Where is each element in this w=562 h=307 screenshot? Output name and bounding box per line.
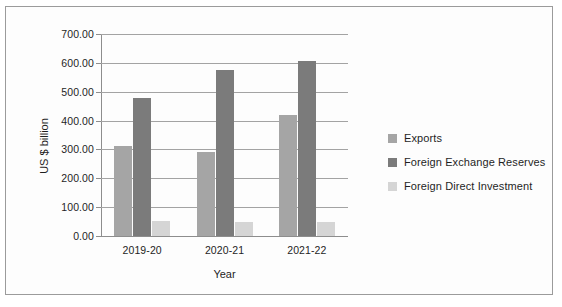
y-axis-tick	[96, 92, 101, 93]
plot-area	[101, 34, 348, 236]
legend-item[interactable]: Exports	[388, 126, 548, 150]
y-axis-tick-label: 0.00	[73, 230, 94, 242]
y-axis-tick	[96, 236, 101, 237]
y-axis-tick	[96, 121, 101, 122]
y-axis-tick-label: 400.00	[61, 115, 94, 127]
legend-item[interactable]: Foreign Exchange Reserves	[388, 150, 548, 174]
y-axis-tick	[96, 34, 101, 35]
legend-swatch-icon	[388, 182, 397, 191]
y-axis-tick-label: 200.00	[61, 172, 94, 184]
y-axis-tick-label: 700.00	[61, 28, 94, 40]
bar	[197, 152, 215, 236]
x-axis-title: Year	[101, 268, 348, 280]
legend-item[interactable]: Foreign Direct Investment	[388, 174, 548, 198]
bar	[133, 98, 151, 236]
y-axis-tick-label: 300.00	[61, 143, 94, 155]
bar	[235, 222, 253, 236]
y-axis-tick	[96, 207, 101, 208]
bar	[279, 115, 297, 236]
y-axis-tick-label: 600.00	[61, 57, 94, 69]
y-axis-tick	[96, 178, 101, 179]
y-axis-tick	[96, 63, 101, 64]
x-axis-tick-label: 2019-20	[123, 244, 162, 256]
bar	[317, 222, 335, 236]
bar	[216, 70, 234, 236]
bar	[298, 61, 316, 236]
legend-swatch-icon	[388, 158, 397, 167]
y-axis-tick-label: 100.00	[61, 201, 94, 213]
x-axis-tick-label: 2020-21	[205, 244, 244, 256]
y-axis-tick-label: 500.00	[61, 86, 94, 98]
legend-item-label: Foreign Exchange Reserves	[404, 156, 545, 168]
y-axis-tick-labels: 0.00100.00200.00300.00400.00500.00600.00…	[34, 34, 94, 237]
legend-item-label: Foreign Direct Investment	[404, 180, 532, 192]
x-axis-tick-labels: 2019-202020-212021-22	[101, 244, 348, 262]
legend-swatch-icon	[388, 134, 397, 143]
x-axis-tick-label: 2021-22	[287, 244, 326, 256]
y-axis-title-container: US $ billion	[14, 40, 34, 240]
bar	[152, 221, 170, 236]
chart-legend: ExportsForeign Exchange ReservesForeign …	[388, 126, 548, 198]
gridline	[101, 34, 348, 35]
legend-item-label: Exports	[404, 132, 442, 144]
bar	[114, 146, 132, 236]
chart-figure: US $ billion 0.00100.00200.00300.00400.0…	[0, 0, 562, 307]
x-axis-line	[101, 236, 348, 237]
y-axis-tick	[96, 149, 101, 150]
